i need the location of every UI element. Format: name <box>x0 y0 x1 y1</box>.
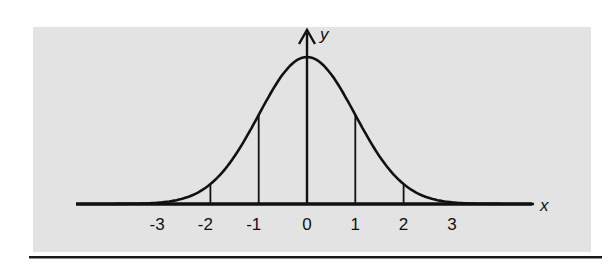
x-tick-label: 0 <box>302 215 311 234</box>
bottom-rule <box>29 256 602 259</box>
chart-panel <box>33 27 591 252</box>
x-tick-label: -3 <box>150 215 165 234</box>
x-tick-label: 3 <box>447 215 456 234</box>
x-axis-label: x <box>539 196 549 215</box>
x-tick-label: 2 <box>399 215 408 234</box>
x-tick-label: 1 <box>351 215 360 234</box>
x-tick-label: -2 <box>198 215 213 234</box>
x-tick-label: -1 <box>246 215 261 234</box>
normal-distribution-figure: y x -3-2-10123 <box>0 0 614 265</box>
y-axis-label: y <box>319 25 330 44</box>
